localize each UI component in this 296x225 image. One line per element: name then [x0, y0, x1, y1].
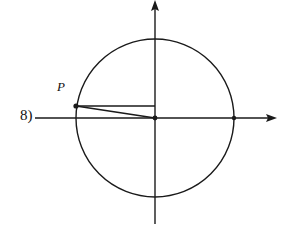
origin-dot [153, 116, 158, 121]
x-intercept-dot [232, 116, 236, 120]
radius-to-p-segment [76, 106, 155, 118]
problem-number: 8) [20, 107, 33, 124]
point-p-label: P [57, 79, 65, 95]
unit-circle-diagram: 8) P [0, 0, 296, 225]
diagram-canvas [0, 0, 296, 225]
point-p-dot [73, 103, 78, 108]
